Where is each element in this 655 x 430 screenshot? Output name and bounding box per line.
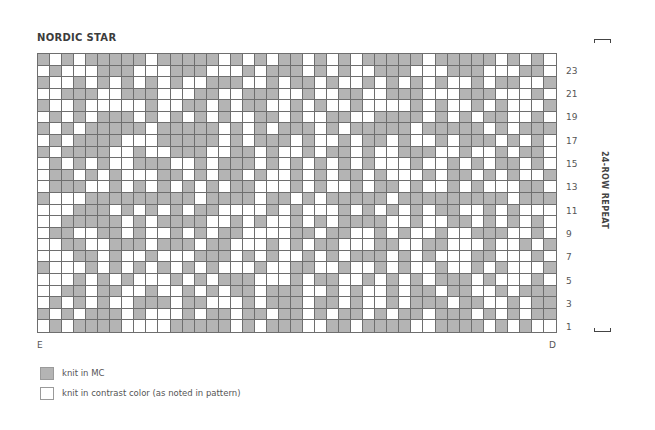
chart-cell (399, 77, 411, 89)
chart-cell (122, 262, 134, 274)
chart-cell (472, 77, 484, 89)
chart-cell (339, 147, 351, 159)
chart-cell (183, 123, 195, 135)
chart-cell (423, 309, 435, 321)
chart-cell (98, 228, 110, 240)
chart-cell (146, 205, 158, 217)
chart-cell (472, 205, 484, 217)
chart-cell (544, 158, 556, 170)
chart-cell (122, 193, 134, 205)
chart-cell (279, 274, 291, 286)
chart-cell (363, 286, 375, 298)
chart-cell (387, 193, 399, 205)
chart-cell (532, 320, 544, 332)
chart-cell (243, 205, 255, 217)
chart-cell (183, 100, 195, 112)
chart-cell (544, 193, 556, 205)
chart-cell (279, 193, 291, 205)
chart-cell (460, 262, 472, 274)
chart-cell (279, 100, 291, 112)
chart-cell (472, 239, 484, 251)
chart-cell (243, 274, 255, 286)
chart-cell (231, 135, 243, 147)
chart-cell (472, 147, 484, 159)
chart-cell (496, 320, 508, 332)
chart-cell (327, 286, 339, 298)
chart-cell (460, 320, 472, 332)
chart-cell (460, 77, 472, 89)
chart-cell (62, 77, 74, 89)
chart-cell (315, 193, 327, 205)
chart-cell (411, 123, 423, 135)
chart-cell (243, 193, 255, 205)
chart-cell (86, 239, 98, 251)
chart-cell (448, 251, 460, 263)
chart-cell (399, 297, 411, 309)
chart-cell (327, 77, 339, 89)
chart-cell (399, 170, 411, 182)
chart-cell (363, 320, 375, 332)
chart-cell (74, 297, 86, 309)
chart-cell (387, 251, 399, 263)
chart-cell (315, 274, 327, 286)
chart-cell (532, 239, 544, 251)
chart-cell (375, 286, 387, 298)
chart-cell (327, 158, 339, 170)
chart-cell (484, 181, 496, 193)
chart-cell (387, 54, 399, 66)
chart-cell (219, 320, 231, 332)
chart-cell (38, 274, 50, 286)
chart-cell (436, 181, 448, 193)
chart-cell (110, 147, 122, 159)
chart-cell (448, 123, 460, 135)
chart-cell (50, 286, 62, 298)
chart-cell (423, 66, 435, 78)
chart-cell (207, 262, 219, 274)
chart-cell (436, 274, 448, 286)
chart-cell (436, 205, 448, 217)
repeat-bracket-top-icon (594, 39, 611, 43)
chart-cell (158, 89, 170, 101)
chart-cell (448, 297, 460, 309)
chart-cell (195, 112, 207, 124)
chart-cell (219, 297, 231, 309)
chart-cell (74, 66, 86, 78)
chart-cell (158, 205, 170, 217)
chart-cell (460, 54, 472, 66)
chart-cell (219, 205, 231, 217)
chart-cell (146, 239, 158, 251)
chart-cell (472, 297, 484, 309)
chart-cell (74, 228, 86, 240)
chart-cell (158, 66, 170, 78)
chart-cell (86, 309, 98, 321)
chart-cell (231, 228, 243, 240)
chart-cell (207, 147, 219, 159)
chart-cell (255, 251, 267, 263)
chart-cell (183, 297, 195, 309)
chart-cell (436, 147, 448, 159)
chart-cell (74, 54, 86, 66)
chart-cell (158, 239, 170, 251)
chart-cell (375, 181, 387, 193)
chart-cell (532, 147, 544, 159)
chart-cell (411, 66, 423, 78)
chart-cell (255, 216, 267, 228)
chart-cell (423, 135, 435, 147)
chart-cell (327, 66, 339, 78)
chart-cell (508, 216, 520, 228)
chart-cell (520, 66, 532, 78)
chart-cell (171, 89, 183, 101)
chart-cell (231, 205, 243, 217)
chart-cell (219, 216, 231, 228)
chart-cell (399, 123, 411, 135)
chart-cell (219, 309, 231, 321)
chart-cell (171, 54, 183, 66)
chart-cell (315, 216, 327, 228)
row-label: 3 (566, 299, 572, 309)
chart-cell (38, 205, 50, 217)
chart-cell (520, 181, 532, 193)
chart-cell (399, 158, 411, 170)
chart-cell (146, 77, 158, 89)
chart-cell (183, 205, 195, 217)
chart-cell (315, 251, 327, 263)
